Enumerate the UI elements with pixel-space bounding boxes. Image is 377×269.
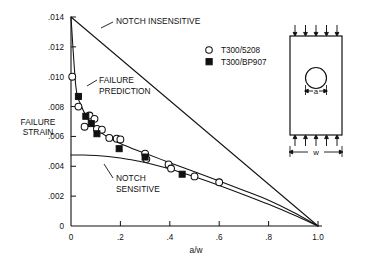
data-point-open-circle (75, 103, 82, 110)
chart-curves (71, 17, 318, 226)
data-point-open-circle (168, 165, 175, 172)
specimen-width-dimension-label: w (312, 148, 319, 157)
data-point-open-circle (81, 123, 88, 130)
y-axis-tick-label: .008 (48, 103, 64, 112)
figure-root: 0.002.004.006.008.010.012.014 0.2.4.6.81… (0, 0, 377, 269)
leader-line-failure-prediction (87, 80, 97, 86)
data-point-filled-square (83, 113, 89, 119)
specimen-diagram: a w (289, 25, 343, 157)
legend: T300/5208 T300/BP907 (206, 46, 267, 67)
annotation-failure-prediction: FAILURE PREDICTION (87, 75, 151, 96)
curve-notch-insensitive (71, 17, 318, 226)
x-axis-tick-label: .8 (265, 233, 272, 242)
data-point-filled-square (75, 93, 81, 99)
legend-label-t300-5208: T300/5208 (221, 46, 261, 55)
curve-notch-sensitive (71, 155, 318, 226)
leader-line-notch-insensitive (101, 22, 113, 28)
y-axis-tick-label: .014 (48, 13, 64, 22)
specimen-width-dimension: w (289, 146, 343, 157)
data-point-filled-square (179, 171, 185, 177)
x-axis-tick-label: .6 (216, 233, 223, 242)
y-axis-title-line1: FAILURE (21, 117, 56, 127)
data-point-open-circle (216, 179, 223, 186)
x-axis-tick-label: 1.0 (312, 233, 324, 242)
legend-symbol-open-circle (206, 47, 213, 54)
legend-symbol-filled-square (206, 59, 212, 65)
annotation-notch-insensitive: NOTCH INSENSITIVE (101, 16, 201, 28)
x-axis-ticks (120, 221, 318, 226)
data-point-filled-square (94, 131, 100, 137)
data-point-filled-square (88, 121, 94, 127)
legend-label-t300-bp907: T300/BP907 (221, 58, 267, 67)
specimen-top-load-arrows (293, 25, 339, 36)
annotation-label-failure-prediction-line2: PREDICTION (99, 86, 151, 96)
y-axis-tick-label: 0 (59, 222, 64, 231)
y-axis-tick-label: .004 (48, 162, 64, 171)
specimen-hole (306, 68, 327, 89)
x-axis-tick-label: 0 (69, 233, 74, 242)
annotation-notch-sensitive: NOTCH SENSITIVE (104, 164, 160, 194)
y-axis-tick-label: .012 (48, 43, 64, 52)
y-axis-tick-label: .010 (48, 73, 64, 82)
specimen-hole-dimension-label: a (314, 87, 319, 96)
annotation-label-notch-sensitive-line1: NOTCH (116, 173, 146, 183)
y-axis-title-line2: STRAIN (23, 127, 54, 137)
failure-strain-chart: 0.002.004.006.008.010.012.014 0.2.4.6.81… (0, 0, 377, 269)
annotation-label-failure-prediction-line1: FAILURE (99, 75, 134, 85)
x-axis-tick-label: .2 (117, 233, 124, 242)
data-point-filled-square (142, 154, 148, 160)
x-axis-tick-labels: 0.2.4.6.81.0 (69, 233, 324, 242)
x-axis-tick-label: .4 (166, 233, 173, 242)
annotation-label-notch-sensitive-line2: SENSITIVE (116, 184, 160, 194)
annotation-label-notch-insensitive: NOTCH INSENSITIVE (116, 16, 201, 26)
x-axis-title: a/w (189, 245, 203, 255)
specimen-bottom-load-arrows (293, 135, 339, 146)
data-point-open-circle (106, 135, 113, 142)
data-point-filled-square (116, 146, 122, 152)
data-point-open-circle (191, 173, 198, 180)
data-point-open-circle (117, 136, 124, 143)
y-axis-tick-label: .002 (48, 192, 64, 201)
data-point-open-circle (69, 73, 76, 80)
leader-line-notch-sensitive (104, 164, 113, 178)
